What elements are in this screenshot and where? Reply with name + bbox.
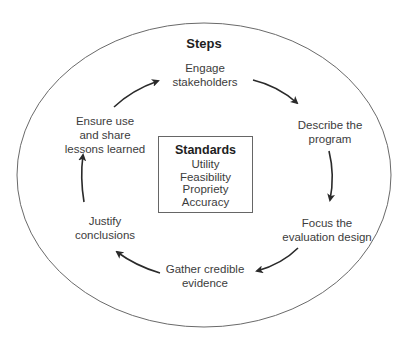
standard-item-accuracy: Accuracy	[159, 196, 252, 209]
step-label-line: and share	[50, 128, 160, 142]
step-describe-program: Describe the program	[275, 118, 385, 146]
arrow-describe-to-focus	[329, 151, 332, 200]
steps-title: Steps	[174, 36, 234, 51]
step-label-line: Ensure use	[50, 114, 160, 128]
standards-box: Standards Utility Feasibility Propriety …	[158, 136, 253, 213]
step-focus-evaluation-design: Focus the evaluation design	[262, 216, 392, 244]
step-label-line: evaluation design	[262, 230, 392, 244]
step-label-line: evidence	[150, 276, 260, 290]
step-label-line: stakeholders	[150, 75, 260, 89]
step-justify-conclusions: Justify conclusions	[50, 214, 160, 242]
step-label-line: Focus the	[262, 216, 392, 230]
step-gather-credible-evidence: Gather credible evidence	[150, 262, 260, 290]
standard-item-propriety: Propriety	[159, 183, 252, 196]
arrow-focus-to-gather	[257, 248, 298, 271]
step-label-line: Engage	[150, 61, 260, 75]
standards-title: Standards	[159, 143, 252, 158]
arrow-justify-to-ensure	[82, 155, 84, 202]
step-label-line: lessons learned	[50, 142, 160, 156]
step-label-line: conclusions	[50, 228, 160, 242]
standard-item-feasibility: Feasibility	[159, 171, 252, 184]
step-label-line: Justify	[50, 214, 160, 228]
standard-item-utility: Utility	[159, 158, 252, 171]
step-label-line: Describe the	[275, 118, 385, 132]
step-engage-stakeholders: Engage stakeholders	[150, 61, 260, 89]
step-ensure-use-share-lessons: Ensure use and share lessons learned	[50, 114, 160, 156]
step-label-line: program	[275, 132, 385, 146]
step-label-line: Gather credible	[150, 262, 260, 276]
